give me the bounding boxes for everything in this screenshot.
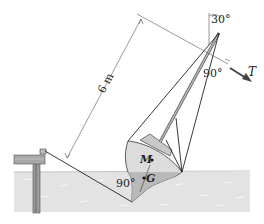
gravity-center-label: G [146, 172, 155, 185]
mast [160, 33, 219, 142]
angle-mast-label: 90° [203, 67, 223, 80]
heeled-sailboat-diagram: 30° 90° T 6 m M G 90° [0, 0, 264, 224]
force-label: T [248, 65, 257, 79]
metacenter-label: M [139, 153, 153, 166]
dimension-label: 6 m [95, 70, 117, 95]
angle-top-label: 30° [211, 13, 231, 26]
angle-keel-label: 90° [116, 177, 136, 190]
